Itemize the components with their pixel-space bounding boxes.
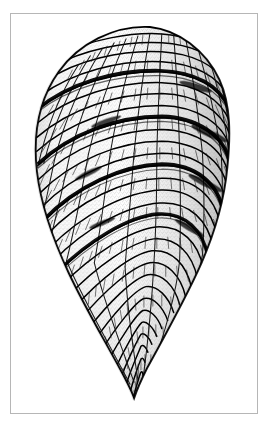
- shell-body: [11, 14, 257, 413]
- plate-frame-border: [10, 13, 258, 414]
- shell-illustration-canvas: [11, 14, 257, 413]
- tip-shading: [11, 243, 257, 413]
- illustration-plate: [0, 0, 268, 426]
